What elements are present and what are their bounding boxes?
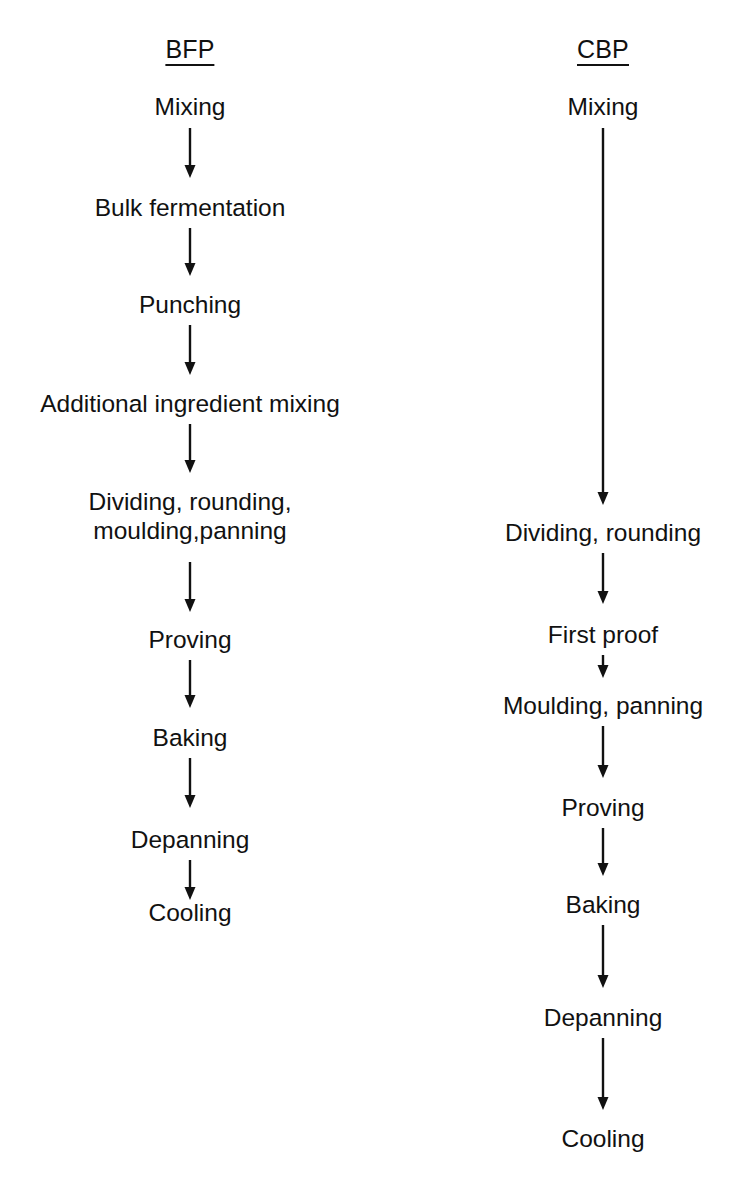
column-header-bfp: BFP	[165, 37, 214, 66]
process-step: Mixing	[568, 92, 639, 121]
flow-arrow	[597, 828, 610, 876]
flow-arrow	[184, 660, 197, 708]
column-header-label: CBP	[577, 37, 629, 66]
process-step: Baking	[153, 723, 228, 752]
process-step: Proving	[561, 793, 644, 822]
process-step: Moulding, panning	[503, 691, 703, 720]
flow-arrow	[184, 758, 197, 808]
flow-arrow	[597, 925, 610, 988]
flow-arrow	[597, 726, 610, 778]
process-step: Punching	[139, 290, 241, 319]
flow-arrow	[184, 128, 197, 178]
process-step: Depanning	[131, 825, 250, 854]
process-step: First proof	[548, 620, 658, 649]
process-step: Baking	[566, 890, 641, 919]
flow-arrow	[184, 860, 197, 900]
process-step: Proving	[148, 625, 231, 654]
process-step: Cooling	[148, 898, 231, 927]
process-step: Additional ingredient mixing	[40, 389, 340, 418]
flow-arrow	[184, 228, 197, 276]
process-step: Bulk fermentation	[95, 193, 286, 222]
flow-arrow	[184, 325, 197, 375]
flow-arrow	[597, 655, 610, 678]
process-step: Dividing, rounding	[505, 518, 701, 547]
flow-arrow	[597, 1038, 610, 1110]
flowchart-canvas: BFPMixingBulk fermentationPunchingAdditi…	[0, 0, 743, 1185]
process-step: Dividing, rounding, moulding,panning	[89, 487, 292, 545]
column-header-cbp: CBP	[577, 37, 629, 66]
flow-arrow	[597, 553, 610, 604]
process-step: Cooling	[561, 1124, 644, 1153]
flow-arrow	[597, 128, 610, 505]
flow-arrow	[184, 562, 197, 612]
column-header-label: BFP	[165, 37, 214, 66]
flow-arrow	[184, 424, 197, 473]
process-step: Mixing	[155, 92, 226, 121]
process-step: Depanning	[544, 1003, 663, 1032]
